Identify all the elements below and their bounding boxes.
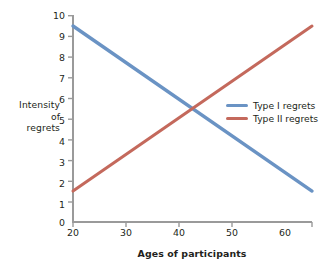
- legend-swatch-type-ii-regrets: [226, 117, 248, 120]
- legend: Type I regrets Type II regrets: [226, 99, 318, 125]
- legend-item-type-ii-regrets: Type II regrets: [226, 112, 318, 125]
- line-chart-figure: Intensity of regrets 10 9 8 7 6 5 4 3 2 …: [0, 0, 334, 280]
- legend-swatch-type-i-regrets: [226, 104, 248, 107]
- legend-label-type-i-regrets: Type I regrets: [253, 101, 315, 110]
- plot-area: [0, 0, 334, 280]
- legend-label-type-ii-regrets: Type II regrets: [253, 114, 318, 123]
- legend-item-type-i-regrets: Type I regrets: [226, 99, 318, 112]
